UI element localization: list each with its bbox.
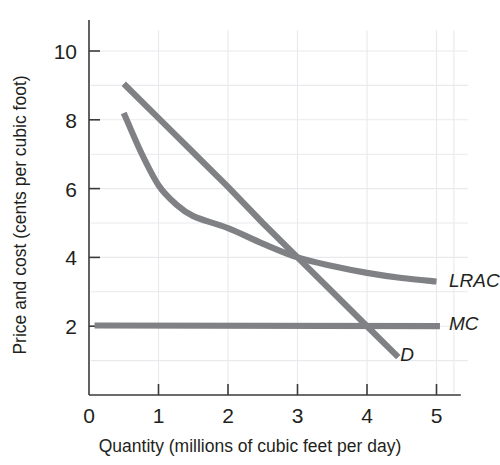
y-tick-label: 8	[65, 109, 77, 132]
data-series-group	[95, 84, 440, 357]
x-tick-label: 3	[292, 404, 304, 427]
series-label-lrac: LRAC	[449, 270, 500, 291]
series-label-mc: MC	[449, 313, 479, 334]
x-axis-title: Quantity (millions of cubic feet per day…	[99, 436, 402, 456]
x-tick-label: 5	[431, 404, 443, 427]
series-lrac-curve	[124, 113, 437, 282]
x-tick-label: 2	[222, 404, 234, 427]
y-tick-label: 4	[65, 246, 77, 269]
y-tick-label: 6	[65, 178, 77, 201]
x-tick-label: 0	[83, 404, 95, 427]
x-tick-label: 1	[153, 404, 165, 427]
gridlines-group	[91, 30, 468, 393]
series-mc-curve	[95, 326, 440, 327]
series-d-curve	[124, 84, 399, 357]
y-tick-label: 10	[54, 40, 77, 63]
series-labels-group: DLRACMC	[400, 270, 500, 365]
y-axis-title: Price and cost (cents per cubic foot)	[10, 75, 30, 354]
chart-canvas: 246810012345 DLRACMC Quantity (millions …	[0, 0, 500, 465]
tick-labels-group: 246810012345	[54, 40, 443, 427]
series-label-d: D	[400, 344, 414, 365]
axes-group	[89, 20, 461, 395]
chart-figure: 246810012345 DLRACMC Quantity (millions …	[0, 0, 500, 465]
x-tick-label: 4	[361, 404, 373, 427]
y-tick-label: 2	[65, 315, 77, 338]
